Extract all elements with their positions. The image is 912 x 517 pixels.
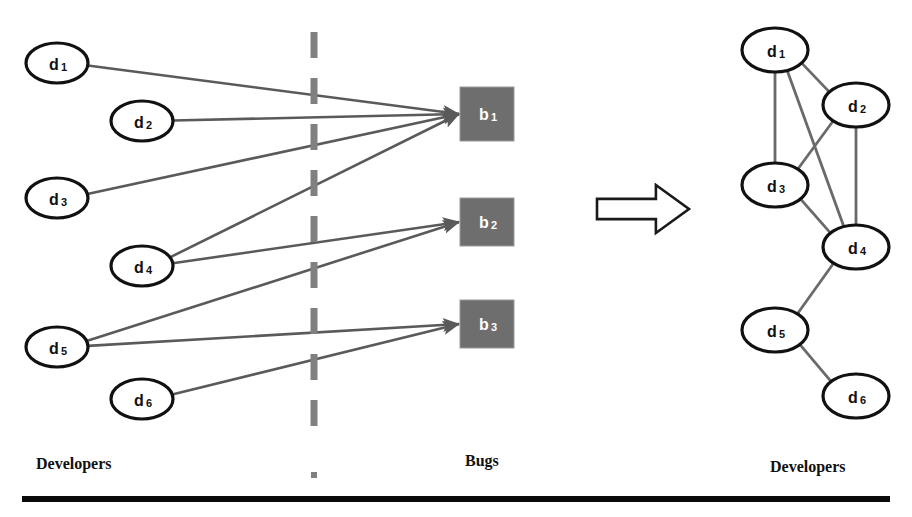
bug-label-b2: b [479,214,489,231]
transform-arrow-group [597,185,689,233]
bipartite-developer-node-d1[interactable]: d1 [26,43,88,83]
node-subscript-d1: 1 [61,61,67,73]
figure-canvas: b1b2b3 d1d2d3d4d5d6 d1d2d3d4d5d6 Develop… [0,0,912,517]
node-label-d3: d [49,191,59,208]
node-subscript-d5: 5 [61,345,67,357]
node-label-right-d1: d [767,43,777,60]
node-label-right-d3: d [767,178,777,195]
bug-label-b3: b [479,316,489,333]
bug-subscript-b1: 1 [491,111,497,123]
caption-developers-left: Developers [36,455,112,473]
divider-dot [311,472,317,478]
node-label-right-d5: d [767,323,777,340]
divider-group [311,32,317,478]
collaboration-developer-node-d1[interactable]: d1 [742,28,808,72]
collaboration-developer-node-d4[interactable]: d4 [823,225,889,269]
node-subscript-right-d3: 3 [779,183,785,195]
bug-node-b3[interactable]: b3 [460,300,514,348]
node-subscript-right-d1: 1 [779,48,785,60]
node-subscript-d3: 3 [61,196,67,208]
caption-developers-right: Developers [770,458,846,476]
developer-node-group-right: d1d2d3d4d5d6 [742,28,889,418]
collaboration-edge-d4-d5 [796,261,835,315]
collaboration-developer-node-d5[interactable]: d5 [742,308,808,352]
node-label-d5: d [49,340,59,357]
node-subscript-d2: 2 [146,119,152,131]
developer-node-group-left: d1d2d3d4d5d6 [26,43,173,419]
collaboration-edge-d5-d6 [799,343,833,383]
bipartite-developer-node-d6[interactable]: d6 [111,379,173,419]
transform-arrow-icon [597,185,689,233]
bug-node-b2[interactable]: b2 [460,198,514,246]
bug-subscript-b3: 3 [491,321,497,333]
collaboration-developer-node-d3[interactable]: d3 [742,163,808,207]
bug-node-b1[interactable]: b1 [460,87,514,141]
collaboration-edge-d2-d3 [797,119,835,171]
bipartite-developer-node-d5[interactable]: d5 [26,327,88,367]
node-label-right-d6: d [848,389,858,406]
node-subscript-right-d6: 6 [860,394,866,406]
bipartite-developer-node-d4[interactable]: d4 [111,246,173,286]
node-subscript-d6: 6 [146,397,152,409]
node-subscript-right-d2: 2 [860,103,866,115]
baseline-rule [22,496,890,502]
caption-bugs: Bugs [465,452,499,470]
bipartite-edge-d2-b1 [173,114,459,121]
node-label-right-d2: d [848,98,858,115]
node-subscript-right-d4: 4 [860,245,867,257]
node-subscript-d4: 4 [146,264,153,276]
bug-label-b1: b [479,106,489,123]
bug-node-group: b1b2b3 [460,87,514,348]
bipartite-edge-d5-b3 [88,324,459,346]
bipartite-developer-node-d3[interactable]: d3 [26,178,88,218]
bug-subscript-b2: 2 [491,219,497,231]
collaboration-developer-node-d2[interactable]: d2 [823,83,889,127]
node-label-d2: d [134,114,144,131]
node-subscript-right-d5: 5 [779,328,785,340]
node-label-right-d4: d [848,240,858,257]
node-label-d6: d [134,392,144,409]
collaboration-developer-node-d6[interactable]: d6 [823,374,889,418]
collaboration-edge-d1-d2 [800,61,831,93]
node-label-d1: d [49,56,59,73]
diagram-svg: b1b2b3 d1d2d3d4d5d6 d1d2d3d4d5d6 [0,0,912,517]
node-label-d4: d [134,259,144,276]
bipartite-developer-node-d2[interactable]: d2 [111,101,173,141]
collaboration-edge-d3-d4 [799,197,832,234]
